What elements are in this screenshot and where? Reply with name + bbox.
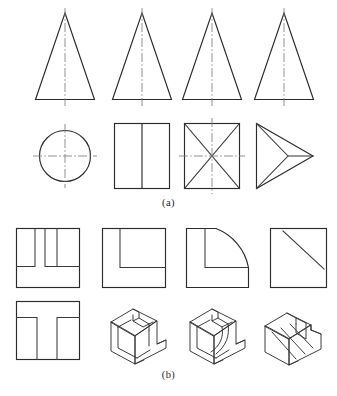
arrowhead-top-view <box>257 124 314 189</box>
part-a-triangles-row <box>0 0 337 115</box>
quarter-round-square-view <box>187 229 249 288</box>
double-slot-square-view <box>17 229 80 288</box>
triangle-front-view-2 <box>113 8 172 106</box>
part-b-isometrics-row <box>0 296 337 368</box>
part-b-top-views-row <box>0 222 337 294</box>
triangle-front-view-4 <box>255 8 314 106</box>
rectangle-top-view <box>115 124 170 189</box>
figure-root: (a) <box>0 0 337 396</box>
diagonal-square-view <box>271 229 327 288</box>
inverted-t-front-view <box>17 302 80 360</box>
isometric-solid-1 <box>111 309 166 364</box>
corner-step-square-view <box>103 229 166 288</box>
isometric-solid-2 <box>190 309 245 364</box>
circle-top-view <box>33 124 97 188</box>
isometric-solid-3 <box>265 313 321 365</box>
triangle-front-view-3 <box>183 8 242 106</box>
caption-part-a: (a) <box>0 197 337 208</box>
triangle-front-view-1 <box>36 8 95 106</box>
part-a-top-views-row <box>0 115 337 197</box>
caption-part-b: (b) <box>0 369 337 380</box>
square-diagonals-top-view <box>179 118 245 194</box>
